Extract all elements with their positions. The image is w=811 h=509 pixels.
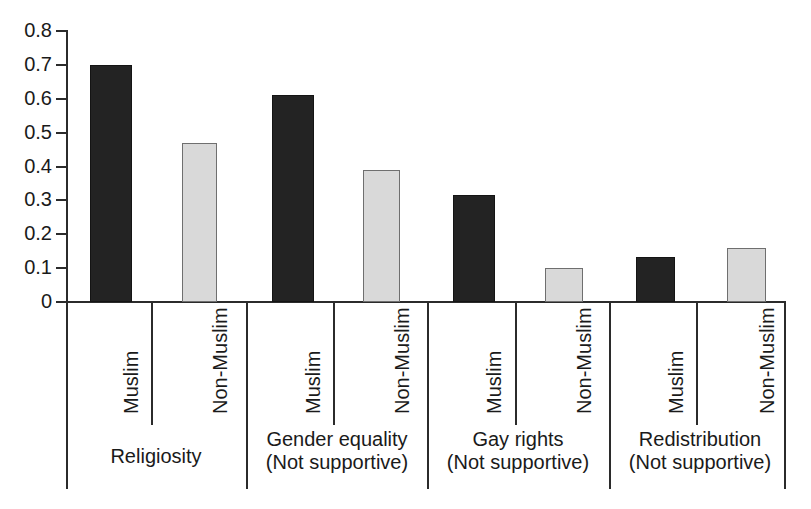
group-label-line2: (Not supportive)	[560, 451, 811, 474]
series-label-muslim: Muslim	[303, 351, 323, 414]
series-separator	[333, 303, 335, 425]
bar-muslim-1	[90, 65, 132, 302]
x-axis-line	[66, 301, 786, 303]
bar-chart: 0.80.70.60.50.40.30.20.10 MuslimNon-Musl…	[0, 0, 811, 509]
y-axis-tick	[56, 64, 67, 66]
series-separator	[151, 303, 153, 425]
y-axis-tick	[56, 166, 67, 168]
y-axis-tick-label: 0	[4, 291, 52, 311]
y-axis-tick	[56, 132, 67, 134]
y-axis-tick	[56, 98, 67, 100]
series-label-non-muslim: Non-Muslim	[392, 307, 412, 414]
series-separator	[515, 303, 517, 425]
y-axis-tick	[56, 233, 67, 235]
bar-non-muslim-3	[545, 268, 583, 302]
y-axis-tick-label: 0.3	[4, 189, 52, 209]
series-label-muslim: Muslim	[484, 351, 504, 414]
bar-non-muslim-4	[727, 248, 766, 302]
y-axis-tick	[56, 267, 67, 269]
series-separator	[696, 303, 698, 425]
y-axis-tick-label: 0.6	[4, 88, 52, 108]
series-label-non-muslim: Non-Muslim	[757, 307, 777, 414]
bar-non-muslim-2	[363, 170, 400, 302]
y-axis-tick-label: 0.1	[4, 257, 52, 277]
y-axis-tick-label: 0.4	[4, 156, 52, 176]
y-axis-tick	[56, 30, 67, 32]
series-label-muslim: Muslim	[121, 351, 141, 414]
bar-muslim-4	[636, 257, 675, 302]
group-label-line1: Redistribution	[560, 428, 811, 451]
y-axis-tick	[56, 199, 67, 201]
y-axis-tick-label: 0.5	[4, 122, 52, 142]
group-label: Redistribution(Not supportive)	[560, 428, 811, 474]
series-label-muslim: Muslim	[666, 351, 686, 414]
bar-non-muslim-1	[182, 143, 217, 302]
series-label-non-muslim: Non-Muslim	[210, 307, 230, 414]
bar-muslim-3	[453, 195, 495, 302]
y-axis-tick-label: 0.2	[4, 223, 52, 243]
y-axis-tick-label: 0.8	[4, 20, 52, 40]
y-axis-tick-label: 0.7	[4, 54, 52, 74]
series-label-non-muslim: Non-Muslim	[574, 307, 594, 414]
bar-muslim-2	[272, 95, 314, 302]
